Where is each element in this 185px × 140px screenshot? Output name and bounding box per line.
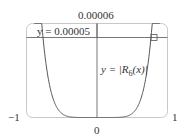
x-min-tick-label: −1 (8, 112, 20, 123)
x-center-tick-label: 0 (94, 125, 100, 136)
plot-canvas (0, 0, 185, 140)
curve-label-main: y = |R (101, 63, 129, 75)
y-max-tick-label: 0.00006 (78, 10, 114, 21)
threshold-label-text: y = 0.00005 (37, 25, 90, 37)
threshold-line-label: y = 0.00005 (37, 26, 90, 37)
curve-label-tail: (x)| (133, 63, 148, 75)
curve-label: y = |R6(x)| (101, 64, 148, 79)
x-max-tick-label: 1 (172, 112, 178, 123)
